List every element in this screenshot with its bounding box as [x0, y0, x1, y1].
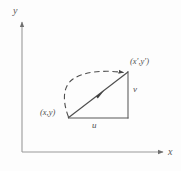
displacement-vector-arrowhead: [96, 90, 105, 99]
y-axis-label: y: [13, 6, 17, 16]
curved-motion-path: [64, 71, 123, 117]
origin-point-label: (x,y): [40, 108, 55, 117]
horizontal-component-label: u: [92, 121, 97, 130]
transformed-point-label: (x',y'): [130, 57, 149, 66]
vertical-component-label: v: [133, 85, 137, 94]
diagram-canvas: [0, 0, 181, 171]
x-axis-label: x: [168, 147, 172, 157]
figure-container: y x (x,y) (x',y') u v: [0, 0, 181, 171]
